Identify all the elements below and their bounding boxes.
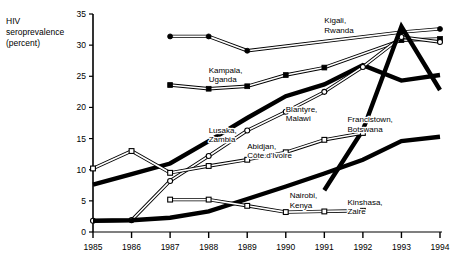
chart-plot-area: 0510152025303519851986198719881989199019… bbox=[0, 0, 460, 274]
y-axis-tick-label: 30 bbox=[77, 40, 87, 50]
data-point bbox=[283, 73, 288, 78]
y-axis-tick-label: 15 bbox=[77, 134, 87, 144]
data-point bbox=[283, 210, 288, 215]
data-point bbox=[168, 197, 173, 202]
y-axis-tick-label: 25 bbox=[77, 71, 87, 81]
data-series bbox=[91, 26, 443, 223]
y-axis-tick-label: 5 bbox=[81, 196, 86, 206]
data-point bbox=[245, 203, 250, 208]
series-label: Lusaka,Zambia bbox=[209, 126, 237, 145]
y-axis-tick-label: 0 bbox=[81, 227, 86, 237]
data-point bbox=[438, 26, 443, 31]
y-axis-tick-label: 10 bbox=[77, 165, 87, 175]
series-label: Abidjan,Côte d'Ivoire bbox=[247, 142, 292, 161]
data-point bbox=[245, 128, 250, 133]
data-point bbox=[206, 164, 211, 169]
data-point bbox=[168, 170, 173, 175]
data-point bbox=[322, 137, 327, 142]
data-point bbox=[129, 149, 134, 154]
y-axis-tick-label: 35 bbox=[77, 9, 87, 19]
x-axis-tick-label: 1986 bbox=[122, 242, 141, 252]
x-axis-tick-label: 1994 bbox=[431, 242, 450, 252]
data-point bbox=[245, 48, 250, 53]
x-axis-tick-label: 1993 bbox=[392, 242, 411, 252]
series-line-outer bbox=[170, 200, 363, 213]
data-point bbox=[168, 83, 173, 88]
series-line bbox=[93, 65, 440, 185]
data-point bbox=[322, 89, 327, 94]
x-axis-tick-label: 1989 bbox=[238, 242, 257, 252]
data-point bbox=[245, 84, 250, 89]
data-point bbox=[206, 34, 211, 39]
x-axis-tick-label: 1985 bbox=[84, 242, 103, 252]
data-point bbox=[168, 34, 173, 39]
data-point bbox=[206, 197, 211, 202]
series-label: Kinshasa,Zaire bbox=[347, 198, 382, 217]
series-label: Blantyre,Malawi bbox=[286, 105, 318, 124]
data-point bbox=[206, 154, 211, 159]
data-point bbox=[206, 86, 211, 91]
data-point bbox=[168, 178, 173, 183]
data-point bbox=[322, 209, 327, 214]
x-axis-tick-label: 1990 bbox=[276, 242, 295, 252]
x-axis-tick-label: 1987 bbox=[161, 242, 180, 252]
data-point bbox=[322, 65, 327, 70]
data-point bbox=[438, 40, 443, 45]
series-lusaka-zambia bbox=[93, 65, 440, 185]
series-label: Nairobi,Kenya bbox=[290, 191, 318, 210]
data-point bbox=[360, 64, 365, 69]
x-axis-tick-label: 1988 bbox=[199, 242, 218, 252]
series-label: Kampala,Uganda bbox=[209, 66, 243, 85]
x-axis-tick-label: 1991 bbox=[315, 242, 334, 252]
hiv-seroprevalence-chart: HIV seroprevalence (percent) 05101520253… bbox=[0, 0, 460, 274]
y-axis-tick-label: 20 bbox=[77, 102, 87, 112]
series-label: Francistown,Botswana bbox=[347, 115, 392, 133]
x-axis-tick-label: 1992 bbox=[353, 242, 372, 252]
series-label: Kigali,Rwanda bbox=[324, 16, 354, 35]
data-point bbox=[91, 166, 96, 171]
